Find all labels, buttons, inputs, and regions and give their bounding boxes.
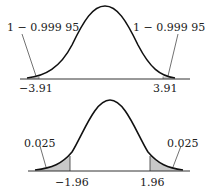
bottom-right-critical-value: 1.96 [140, 177, 165, 188]
top-left-tail-label: 1 − 0.999 95 [7, 22, 79, 33]
top-curve [27, 6, 175, 78]
top-right-tail-label: 1 − 0.999 95 [133, 22, 205, 33]
bottom-curve [35, 100, 183, 170]
top-normal-curve [20, 6, 190, 79]
bottom-right-tail-label: 0.025 [167, 138, 199, 149]
bottom-normal-curve [28, 100, 190, 171]
bottom-left-critical-value: −1.96 [55, 177, 89, 188]
top-left-critical-value: −3.91 [19, 83, 53, 94]
bottom-left-tail-label: 0.025 [24, 138, 56, 149]
top-right-critical-value: 3.91 [153, 83, 178, 94]
